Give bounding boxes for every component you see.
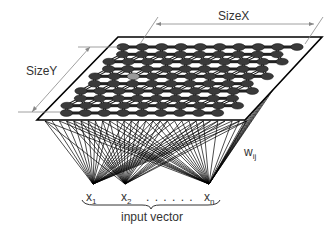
neuron <box>80 102 92 109</box>
neuron <box>155 102 167 109</box>
neuron <box>151 88 163 95</box>
neuron <box>161 58 173 65</box>
neuron <box>257 58 269 65</box>
sizex-label: SizeX <box>218 9 249 23</box>
input-ellipsis: . . . . . . <box>146 190 194 204</box>
neuron <box>102 66 114 73</box>
neuron <box>174 51 186 58</box>
neuron <box>136 110 148 117</box>
neuron <box>222 80 234 87</box>
neuron <box>198 66 210 73</box>
neuron <box>160 66 172 73</box>
neuron <box>116 51 128 58</box>
input-x1-subscript: 1 <box>92 197 96 206</box>
neuron <box>170 88 182 95</box>
neuron <box>189 88 201 95</box>
neuron <box>207 95 219 102</box>
neuron <box>256 66 268 73</box>
neuron <box>136 51 148 58</box>
neuron <box>131 95 143 102</box>
input-xn-label: xn <box>204 190 214 206</box>
neuron <box>226 95 238 102</box>
input-xn-subscript: n <box>210 197 214 206</box>
neuron <box>179 66 191 73</box>
neuron <box>127 80 139 87</box>
neuron <box>141 58 153 65</box>
neuron <box>93 95 105 102</box>
neuron <box>212 102 224 109</box>
neuron <box>188 95 200 102</box>
neuron <box>271 51 283 58</box>
neuron <box>180 58 192 65</box>
neuron <box>184 80 196 87</box>
neuron <box>261 73 273 80</box>
neuron <box>107 80 119 87</box>
neuron <box>199 58 211 65</box>
neuron <box>136 44 148 51</box>
neuron <box>150 95 162 102</box>
neuron <box>79 110 91 117</box>
neuron <box>155 51 167 58</box>
input-x1-label: x1 <box>86 190 96 206</box>
neuron <box>192 110 204 117</box>
neuron <box>141 66 153 73</box>
neuron <box>237 58 249 65</box>
neuron <box>203 80 215 87</box>
input-x2-subscript: 2 <box>127 197 131 206</box>
neuron <box>61 102 73 109</box>
neuron <box>98 110 110 117</box>
neuron <box>118 102 130 109</box>
neuron <box>75 88 87 95</box>
neuron <box>74 95 86 102</box>
neuron <box>155 44 167 51</box>
neuron <box>211 110 223 117</box>
neuron <box>252 44 264 51</box>
input-x2-label: x2 <box>121 190 131 206</box>
neuron <box>99 102 111 109</box>
neuron <box>218 66 230 73</box>
neuron <box>127 73 139 80</box>
neuron <box>231 102 243 109</box>
neuron <box>169 95 181 102</box>
neuron <box>103 58 115 65</box>
neuron <box>232 51 244 58</box>
input-vector-label: input vector <box>121 210 183 224</box>
som-diagram: SizeX SizeY wij x1 x2 . . . . . . xn inp… <box>0 0 336 237</box>
neuron <box>241 80 253 87</box>
neuron <box>146 80 158 87</box>
neuron <box>132 88 144 95</box>
neuron <box>174 102 186 109</box>
neuron <box>137 102 149 109</box>
neuron <box>88 80 100 87</box>
neuron <box>89 73 101 80</box>
neuron <box>112 95 124 102</box>
neuron <box>237 66 249 73</box>
sizey-label: SizeY <box>26 64 57 78</box>
neuron <box>108 73 120 80</box>
neuron <box>193 102 205 109</box>
neuron <box>213 51 225 58</box>
neuron <box>251 51 263 58</box>
neuron <box>174 110 186 117</box>
neuron <box>213 44 225 51</box>
weights-symbol: w <box>244 145 253 159</box>
weights-label: wij <box>244 145 256 161</box>
neuron <box>194 51 206 58</box>
neuron <box>94 88 106 95</box>
neuron <box>276 58 288 65</box>
neuron <box>122 66 134 73</box>
neuron <box>165 73 177 80</box>
neuron <box>165 80 177 87</box>
neuron <box>227 88 239 95</box>
neuron <box>194 44 206 51</box>
neuron <box>122 58 134 65</box>
neuron <box>155 110 167 117</box>
neuron <box>218 58 230 65</box>
neuron <box>146 73 158 80</box>
neuron <box>204 73 216 80</box>
neuron <box>271 44 283 51</box>
neuron <box>184 73 196 80</box>
neuron <box>117 110 129 117</box>
neuron <box>113 88 125 95</box>
neuron <box>246 88 258 95</box>
